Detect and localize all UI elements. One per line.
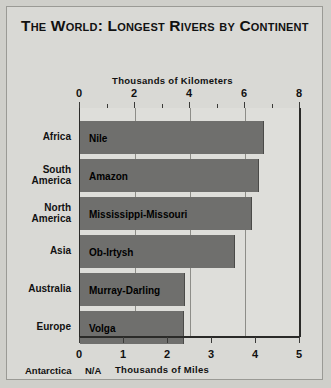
mi-tick-label-2: 2 xyxy=(164,348,170,360)
plot-area: Nile Amazon Mississippi-Missouri Ob-Irty… xyxy=(79,108,300,337)
mi-tick-label-3: 3 xyxy=(208,348,214,360)
km-tick-label-2: 2 xyxy=(131,87,137,99)
bar-volga: Volga xyxy=(80,311,184,344)
bar-murray-darling: Murray-Darling xyxy=(80,273,185,306)
bar-mississippi-missouri: Mississippi-Missouri xyxy=(80,197,252,230)
top-axis-title: Thousands of Kilometers xyxy=(7,75,331,86)
km-tick-label-4: 4 xyxy=(186,87,192,99)
category-label-north-america: North America xyxy=(9,202,71,224)
bar-ob-irtysh: Ob-Irtysh xyxy=(80,235,235,268)
bar-label-nile: Nile xyxy=(89,132,107,143)
bottom-axis-title: Thousands of Miles xyxy=(115,364,209,375)
category-label-europe: Europe xyxy=(9,321,71,332)
mi-tick-3 xyxy=(211,337,212,343)
bar-label-murray-darling: Murray-Darling xyxy=(89,284,160,295)
mi-tick-1 xyxy=(123,337,124,343)
mi-tick-label-0: 0 xyxy=(76,348,82,360)
category-label-south-america: South America xyxy=(9,164,71,186)
bar-amazon: Amazon xyxy=(80,159,259,192)
footnote-continent: Antarctica xyxy=(25,365,71,376)
mi-tick-label-5: 5 xyxy=(296,348,302,360)
bottom-axis-line xyxy=(79,336,300,338)
bar-label-mississippi-missouri: Mississippi-Missouri xyxy=(89,208,187,219)
category-label-australia: Australia xyxy=(9,283,71,294)
mi-tick-label-4: 4 xyxy=(252,348,258,360)
category-label-africa: Africa xyxy=(9,131,71,142)
mi-tick-5 xyxy=(299,337,300,343)
footnote-value: N/A xyxy=(85,365,101,376)
km-tick-label-0: 0 xyxy=(76,87,82,99)
km-tick-label-6: 6 xyxy=(241,87,247,99)
bar-label-ob-irtysh: Ob-Irtysh xyxy=(89,246,133,257)
bar-label-amazon: Amazon xyxy=(89,170,128,181)
page-title: The World: Longest Rivers by Continent xyxy=(21,17,311,34)
category-label-asia: Asia xyxy=(9,245,71,256)
chart-panel: The World: Longest Rivers by Continent T… xyxy=(6,6,323,380)
mi-tick-4 xyxy=(255,337,256,343)
km-tick-label-8: 8 xyxy=(296,87,302,99)
mi-tick-0 xyxy=(79,337,80,343)
mi-tick-2 xyxy=(167,337,168,343)
bar-nile: Nile xyxy=(80,121,264,154)
mi-tick-label-1: 1 xyxy=(120,348,126,360)
right-axis-line xyxy=(299,108,301,337)
bar-label-volga: Volga xyxy=(89,322,115,333)
